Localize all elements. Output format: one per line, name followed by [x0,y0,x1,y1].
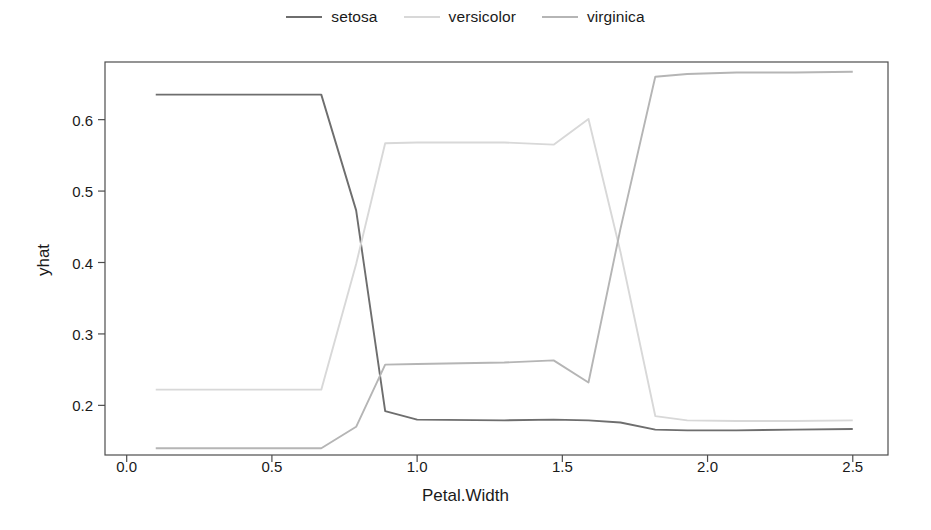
y-tick-label-0.4: 0.4 [72,254,93,271]
series-line-versicolor [156,119,853,421]
y-tick-label-0.3: 0.3 [72,325,93,342]
series-line-setosa [156,95,853,431]
y-tick-label-0.2: 0.2 [72,397,93,414]
x-axis-title: Petal.Width [0,486,931,506]
y-tick-label-0.6: 0.6 [72,111,93,128]
series-line-virginica [156,72,853,448]
plot-box-frame [105,62,888,455]
x-tick-label-2.0: 2.0 [697,458,718,475]
line-chart-canvas [0,0,931,530]
y-tick-label-0.5: 0.5 [72,183,93,200]
x-tick-label-0.5: 0.5 [261,458,282,475]
x-tick-label-2.5: 2.5 [842,458,863,475]
x-tick-label-1.0: 1.0 [407,458,428,475]
y-axis-title: yhat [34,200,54,320]
chart-figure: setosaversicolorvirginica 0.20.30.40.50.… [0,0,931,530]
x-tick-label-0.0: 0.0 [116,458,137,475]
x-tick-label-1.5: 1.5 [552,458,573,475]
plot-area: 0.20.30.40.50.6 Petal.Width yhat 0.00.51… [0,0,931,530]
